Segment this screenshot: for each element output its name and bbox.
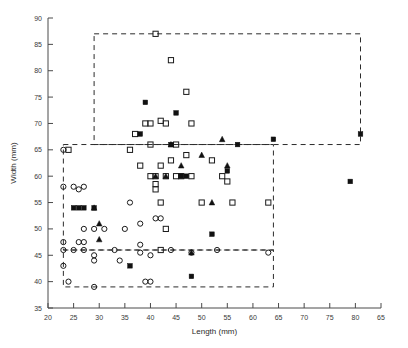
y-tick-label: 45 [34, 252, 42, 259]
x-tick-label: 75 [326, 314, 334, 321]
data-point-filled-square [138, 132, 143, 137]
x-tick-label: 45 [172, 314, 180, 321]
y-tick-label: 75 [34, 94, 42, 101]
x-axis-title: Length (mm) [192, 327, 238, 336]
y-tick-label: 65 [34, 146, 42, 153]
y-tick-label: 70 [34, 120, 42, 127]
x-tick-label: 35 [121, 314, 129, 321]
data-point-open-circle [138, 221, 143, 226]
x-tick-label: 55 [223, 314, 231, 321]
data-point-open-square [168, 58, 173, 63]
x-tick-label: 20 [44, 314, 52, 321]
x-tick-label: 60 [249, 314, 257, 321]
data-point-open-circle [127, 200, 132, 205]
data-point-open-circle [266, 250, 271, 255]
data-point-filled-square [76, 206, 81, 211]
data-point-filled-square [82, 206, 87, 211]
data-point-open-square [127, 147, 132, 152]
data-point-open-square [184, 152, 189, 157]
data-point-open-circle [158, 216, 163, 221]
data-point-filled-square [189, 274, 194, 279]
data-point-open-square [163, 226, 168, 231]
data-point-open-square [184, 89, 189, 94]
x-tick-label: 30 [95, 314, 103, 321]
data-point-open-square [189, 174, 194, 179]
data-point-open-square [143, 121, 148, 126]
data-point-open-circle [148, 253, 153, 258]
data-point-open-circle [81, 226, 86, 231]
data-point-filled-square [210, 232, 215, 237]
data-point-open-circle [138, 242, 143, 247]
data-point-filled-square [174, 111, 179, 116]
data-point-open-square [266, 200, 271, 205]
data-point-open-square [199, 200, 204, 205]
data-point-filled-square [235, 142, 240, 147]
data-point-open-circle [92, 253, 97, 258]
x-tick-label: 25 [70, 314, 78, 321]
y-tick-label: 50 [34, 225, 42, 232]
data-point-filled-triangle [225, 163, 231, 168]
data-point-open-circle [66, 279, 71, 284]
chart-canvas: 3540455055606570758085902025303540455055… [0, 0, 408, 348]
data-point-open-circle [76, 187, 81, 192]
data-point-open-square [173, 174, 178, 179]
data-point-open-circle [153, 216, 158, 221]
y-tick-label: 35 [34, 305, 42, 312]
data-point-open-square [189, 121, 194, 126]
data-point-open-circle [143, 279, 148, 284]
x-tick-label: 65 [377, 314, 385, 321]
data-point-open-circle [138, 250, 143, 255]
data-point-filled-square [225, 169, 230, 174]
y-tick-label: 85 [34, 41, 42, 48]
data-point-filled-square [184, 174, 189, 179]
data-point-open-square [153, 181, 158, 186]
data-point-open-square [220, 174, 225, 179]
data-point-open-square [168, 158, 173, 163]
data-point-filled-square [179, 174, 184, 179]
data-point-open-circle [122, 226, 127, 231]
data-point-open-circle [92, 258, 97, 263]
data-point-open-square [66, 147, 71, 152]
data-point-open-circle [81, 239, 86, 244]
data-point-open-square [132, 131, 137, 136]
data-point-filled-square [71, 206, 76, 211]
x-tick-label: 40 [147, 314, 155, 321]
y-axis-title: Width (mm) [9, 142, 18, 184]
data-point-filled-square [143, 100, 148, 105]
data-point-filled-triangle [209, 200, 215, 205]
data-point-filled-square [348, 179, 353, 184]
data-point-open-circle [81, 184, 86, 189]
data-point-open-square [148, 174, 153, 179]
x-tick-label: 70 [300, 314, 308, 321]
x-tick-label: 65 [275, 314, 283, 321]
data-point-open-circle [76, 239, 81, 244]
data-point-open-square [153, 187, 158, 192]
x-tick-label: 80 [351, 314, 359, 321]
data-point-filled-square [358, 132, 363, 137]
data-point-filled-triangle [199, 152, 205, 157]
y-tick-label: 40 [34, 278, 42, 285]
region-outer-box [94, 34, 360, 145]
data-point-open-square [158, 118, 163, 123]
data-point-open-square [163, 121, 168, 126]
data-point-open-circle [148, 279, 153, 284]
data-point-filled-square [271, 137, 276, 142]
data-point-open-square [158, 163, 163, 168]
data-point-open-square [138, 163, 143, 168]
scatter-plot: 3540455055606570758085902025303540455055… [0, 0, 408, 348]
x-tick-label: 50 [198, 314, 206, 321]
data-point-filled-triangle [178, 163, 184, 168]
y-tick-label: 55 [34, 199, 42, 206]
y-tick-label: 80 [34, 67, 42, 74]
data-point-open-square [225, 179, 230, 184]
data-point-open-circle [92, 226, 97, 231]
y-tick-label: 90 [34, 15, 42, 22]
data-point-open-circle [117, 258, 122, 263]
data-point-open-square [230, 200, 235, 205]
data-point-filled-triangle [219, 136, 225, 141]
data-point-open-circle [71, 184, 76, 189]
region-inner-box [63, 250, 273, 287]
data-point-filled-triangle [96, 221, 102, 226]
data-point-open-square [148, 121, 153, 126]
data-point-open-square [158, 200, 163, 205]
